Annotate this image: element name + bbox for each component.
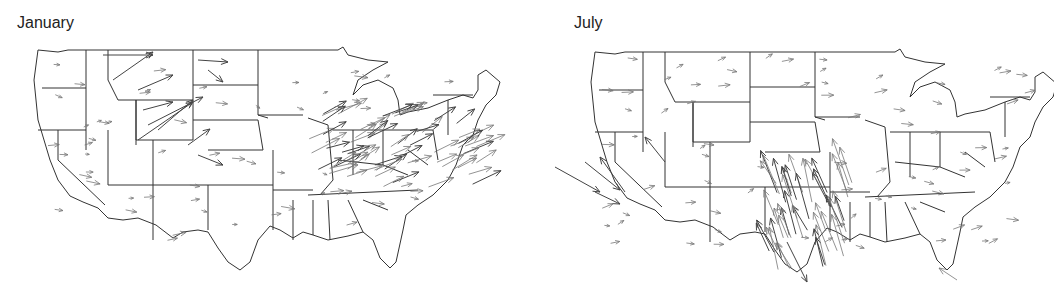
january-panel: January: [0, 0, 527, 308]
july-panel: July: [527, 0, 1054, 308]
july-map: [527, 0, 1054, 308]
january-map: [0, 0, 527, 308]
